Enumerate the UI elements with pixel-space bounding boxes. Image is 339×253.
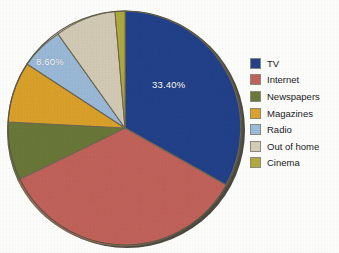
chart-legend: TV Internet Newspapers Magazines Radio O… bbox=[250, 55, 339, 171]
legend-item-internet[interactable]: Internet bbox=[250, 72, 339, 89]
legend-item-magazines[interactable]: Magazines bbox=[250, 105, 339, 122]
legend-label-out-of-home: Out of home bbox=[267, 141, 319, 152]
legend-label-internet: Internet bbox=[267, 74, 299, 85]
legend-swatch-icon-radio bbox=[250, 124, 261, 135]
legend-label-radio: Radio bbox=[267, 124, 292, 135]
legend-swatch-icon-newspapers bbox=[250, 91, 261, 102]
pie-chart-figure: 33.40% 8.60% TV Internet Newspapers Maga… bbox=[0, 0, 339, 253]
legend-item-radio[interactable]: Radio bbox=[250, 121, 339, 138]
pie-chart-plot-area: 33.40% 8.60% bbox=[0, 0, 248, 253]
legend-swatch-icon-internet bbox=[250, 74, 261, 85]
legend-swatch-icon-tv bbox=[250, 58, 261, 69]
pie-chart-svg bbox=[0, 0, 248, 253]
legend-item-tv[interactable]: TV bbox=[250, 55, 339, 72]
legend-swatch-icon-cinema bbox=[250, 157, 261, 168]
legend-item-cinema[interactable]: Cinema bbox=[250, 155, 339, 172]
legend-label-newspapers: Newspapers bbox=[267, 91, 320, 102]
legend-item-newspapers[interactable]: Newspapers bbox=[250, 88, 339, 105]
legend-item-out-of-home[interactable]: Out of home bbox=[250, 138, 339, 155]
legend-swatch-icon-out-of-home bbox=[250, 141, 261, 152]
legend-label-cinema: Cinema bbox=[267, 157, 300, 168]
legend-swatch-icon-magazines bbox=[250, 108, 261, 119]
legend-label-magazines: Magazines bbox=[267, 108, 313, 119]
legend-label-tv: TV bbox=[267, 58, 279, 69]
